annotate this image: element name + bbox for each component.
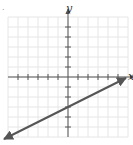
- coordinate-plane: [0, 0, 133, 145]
- x-axis-label: x: [128, 71, 133, 82]
- graph-figure: . y x: [0, 0, 133, 145]
- y-axis-label: y: [66, 3, 72, 14]
